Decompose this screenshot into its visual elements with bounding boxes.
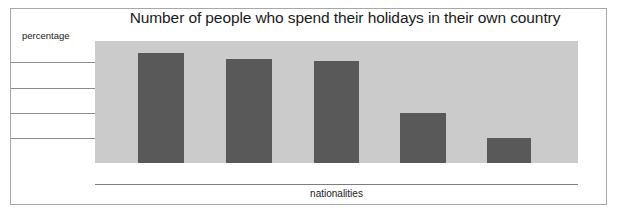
bar-chart-figure: Number of people who spend their holiday…	[0, 0, 620, 214]
chart-title: Number of people who spend their holiday…	[95, 9, 595, 27]
bar-3	[314, 61, 359, 163]
bar-1	[138, 53, 184, 163]
bar-4	[400, 113, 446, 163]
x-axis-line	[95, 184, 578, 185]
x-axis-label: nationalities	[95, 188, 578, 199]
bar-5	[487, 138, 531, 163]
plot-area	[95, 41, 578, 163]
y-axis-label: percentage	[22, 30, 70, 41]
bar-2	[226, 59, 272, 163]
